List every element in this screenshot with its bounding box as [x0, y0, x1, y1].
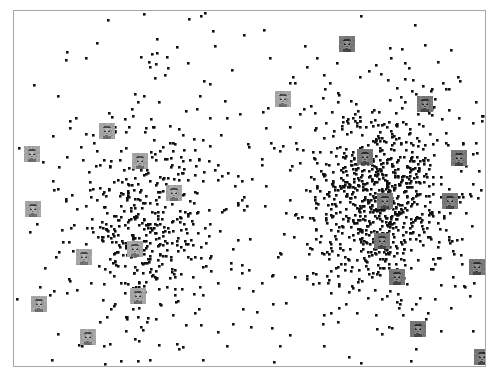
face-thumb-left-3[interactable] [132, 153, 148, 169]
face-photo-icon [474, 349, 486, 365]
face-photo-icon [99, 123, 115, 139]
face-thumb-left-9[interactable] [31, 296, 47, 312]
face-photo-icon [389, 269, 405, 285]
face-thumb-left-7[interactable] [76, 249, 92, 265]
face-photo-icon [451, 150, 467, 166]
face-thumb-right-2[interactable] [417, 96, 433, 112]
face-photo-icon [374, 233, 390, 249]
face-photo-icon [357, 149, 373, 165]
face-thumb-right-5[interactable] [377, 193, 393, 209]
face-thumb-right-10[interactable] [410, 321, 426, 337]
face-photo-icon [130, 288, 146, 304]
face-photo-icon [410, 321, 426, 337]
embedding-scatter-figure [0, 0, 503, 389]
face-photo-icon [417, 96, 433, 112]
face-photo-icon [127, 241, 143, 257]
face-photo-icon [469, 259, 485, 275]
face-photo-icon [377, 193, 393, 209]
face-thumb-right-4[interactable] [451, 150, 467, 166]
scatter-points-layer [14, 11, 485, 366]
face-thumb-left-4[interactable] [166, 185, 182, 201]
face-thumb-left-2[interactable] [99, 123, 115, 139]
face-photo-icon [275, 91, 291, 107]
face-photo-icon [24, 146, 40, 162]
face-thumb-left-5[interactable] [25, 201, 41, 217]
face-thumb-left-8[interactable] [130, 288, 146, 304]
face-thumb-left-6[interactable] [127, 241, 143, 257]
face-thumb-left-1[interactable] [24, 146, 40, 162]
face-thumb-right-9[interactable] [469, 259, 485, 275]
face-photo-icon [25, 201, 41, 217]
face-thumb-right-3[interactable] [357, 149, 373, 165]
plot-frame [13, 10, 486, 367]
face-thumb-right-7[interactable] [374, 233, 390, 249]
face-thumb-right-6[interactable] [442, 193, 458, 209]
face-photo-icon [80, 329, 96, 345]
face-photo-icon [442, 193, 458, 209]
face-photo-icon [166, 185, 182, 201]
face-thumb-mid-1[interactable] [275, 91, 291, 107]
face-thumb-left-10[interactable] [80, 329, 96, 345]
face-thumb-right-8[interactable] [389, 269, 405, 285]
face-photo-icon [132, 153, 148, 169]
face-photo-icon [31, 296, 47, 312]
face-photo-icon [339, 36, 355, 52]
face-thumb-right-1[interactable] [339, 36, 355, 52]
face-thumb-right-11[interactable] [474, 349, 486, 365]
face-photo-icon [76, 249, 92, 265]
